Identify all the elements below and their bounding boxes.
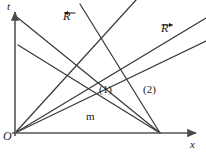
left-vector-glyph: R (63, 10, 70, 22)
region-one-label: (1) (99, 84, 112, 95)
right-vector-glyph: R (161, 22, 168, 34)
origin-ray-3 (15, 0, 136, 133)
time-axis-label: t (7, 1, 10, 12)
origin-ray-group (15, 0, 206, 133)
origin-ray-1 (15, 18, 206, 133)
right-arrow-accent-icon (161, 22, 174, 28)
left-arrow-accent-icon (63, 10, 76, 16)
space-axis-label: x (190, 139, 195, 150)
origin-label: O (3, 130, 12, 142)
diagram-canvas (0, 0, 206, 154)
spacetime-diagram: t x O m (1) (2) R R (0, 0, 206, 154)
right-vector-label: R (161, 22, 168, 34)
region-two-label: (2) (143, 84, 156, 95)
left-vector-label: R (63, 10, 70, 22)
mass-label: m (86, 111, 95, 122)
